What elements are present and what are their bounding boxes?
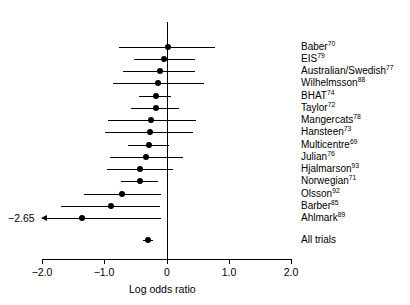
reference-superscript: 69 (350, 137, 358, 144)
x-ticklabel-1: −1.0 (84, 266, 124, 278)
study-label: Australian/Swedish77 (301, 66, 394, 76)
study-label: All trials (301, 235, 336, 245)
point-estimate-marker (143, 154, 149, 160)
point-estimate-marker (148, 117, 154, 123)
offscale-value-label: −2.65 (8, 212, 35, 224)
x-tick-4 (291, 259, 292, 264)
study-label: Olsson92 (301, 189, 340, 199)
study-label: EIS79 (301, 54, 325, 64)
reference-superscript: 72 (328, 100, 336, 107)
confidence-interval-line (47, 218, 161, 219)
point-estimate-marker (155, 80, 161, 86)
study-label: Mangercats78 (301, 115, 361, 125)
study-label: Baber70 (301, 42, 335, 52)
point-estimate-marker (153, 93, 159, 99)
point-estimate-marker (153, 105, 159, 111)
reference-superscript: 78 (353, 113, 361, 120)
point-estimate-marker (79, 215, 85, 221)
x-tick-0 (42, 259, 43, 264)
reference-superscript: 74 (327, 88, 335, 95)
study-label: Julian76 (301, 152, 335, 162)
reference-superscript: 89 (338, 211, 346, 218)
study-label: Multicentre69 (301, 140, 357, 150)
point-estimate-marker (108, 203, 114, 209)
study-label: Wilhelmsson88 (301, 78, 365, 88)
reference-superscript: 70 (328, 39, 336, 46)
reference-superscript: 79 (317, 51, 325, 58)
reference-superscript: 92 (332, 186, 340, 193)
point-estimate-marker (147, 129, 153, 135)
point-estimate-marker (165, 44, 171, 50)
point-estimate-marker (119, 191, 125, 197)
x-ticklabel-4: 2.0 (271, 266, 311, 278)
point-estimate-marker (145, 237, 151, 243)
x-axis-title: Log odds ratio (129, 283, 196, 295)
study-label: BHAT74 (301, 91, 335, 101)
study-label: Taylor72 (301, 103, 335, 113)
x-tick-2 (167, 259, 168, 264)
x-tick-3 (229, 259, 230, 264)
point-estimate-marker (137, 166, 143, 172)
study-label: Hansteen73 (301, 127, 351, 137)
study-label: Barber85 (301, 201, 339, 211)
reference-superscript: 93 (352, 162, 360, 169)
point-estimate-marker (161, 56, 167, 62)
x-ticklabel-0: −2.0 (22, 266, 62, 278)
study-label: Ahlmark89 (301, 213, 345, 223)
reference-superscript: 71 (349, 174, 357, 181)
reference-superscript: 88 (358, 76, 366, 83)
reference-superscript: 85 (331, 198, 339, 205)
x-tick-1 (104, 259, 105, 264)
reference-superscript: 76 (327, 149, 335, 156)
study-label: Norwegian71 (301, 176, 356, 186)
clipped-interval-arrow (41, 215, 47, 221)
study-label: Hjalmarson93 (301, 164, 359, 174)
reference-superscript: 77 (386, 64, 394, 71)
point-estimate-marker (137, 178, 143, 184)
point-estimate-marker (157, 68, 163, 74)
x-ticklabel-2: 0 (147, 266, 187, 278)
reference-line-zero (167, 22, 168, 259)
point-estimate-marker (146, 142, 152, 148)
reference-superscript: 73 (344, 125, 352, 132)
x-ticklabel-3: 1.0 (209, 266, 249, 278)
forest-plot: −2.0 −1.0 0 1.0 2.0 Log odds ratio −2.65… (0, 0, 410, 305)
